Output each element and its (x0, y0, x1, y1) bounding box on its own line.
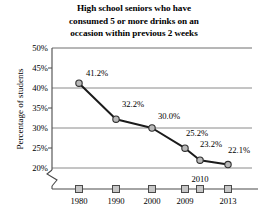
plot-area (0, 0, 268, 217)
x-axis-marker-1980 (76, 186, 83, 193)
x-axis-marker-2009 (182, 186, 189, 193)
data-line-series (79, 83, 228, 164)
data-point-2013 (225, 161, 231, 167)
data-point-2010 (197, 157, 203, 163)
data-point-2009 (182, 145, 188, 151)
axis-break-icon (47, 170, 57, 186)
data-point-1990 (113, 116, 119, 122)
x-axis-marker-2000 (149, 186, 156, 193)
x-axis-marker-2010 (197, 186, 204, 193)
x-axis-marker-1990 (113, 186, 120, 193)
chart-container: High school seniors who have consumed 5 … (0, 0, 268, 217)
x-axis-marker-2013 (225, 186, 232, 193)
data-point-1980 (76, 80, 82, 86)
data-point-2000 (149, 125, 155, 131)
